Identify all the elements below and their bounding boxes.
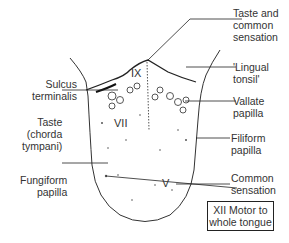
label-fungiform-papilla: Fungiform papilla	[20, 174, 67, 198]
label-line: sensation	[233, 31, 279, 43]
label-line: Fungiform	[20, 174, 67, 186]
label-line: Taste	[22, 116, 62, 128]
label-line: 'Lingual	[233, 61, 269, 73]
label-line: terminalis	[32, 90, 77, 102]
label-line: common	[233, 19, 279, 31]
label-line: Vallate	[233, 95, 264, 107]
motor-note-box: XII Motor to whole tongue	[207, 201, 274, 231]
label-line: sensation	[231, 184, 276, 196]
label-taste-and-common-sensation: Taste and common sensation	[233, 7, 279, 43]
label-line: tonsil'	[233, 73, 269, 85]
label-line: Common	[231, 172, 276, 184]
label-filiform-papilla: Filiform papilla	[231, 132, 265, 156]
label-lingual-tonsil: 'Lingual tonsil'	[233, 61, 269, 85]
region-vii: VII	[114, 117, 127, 129]
label-vallate-papilla: Vallate papilla	[233, 95, 264, 119]
label-line: (chorda	[22, 128, 62, 140]
label-line: Filiform	[231, 132, 265, 144]
tongue-outline	[70, 50, 220, 222]
label-line: Sulcus	[32, 78, 77, 90]
box-line: whole tongue	[208, 216, 273, 228]
label-line: papilla	[20, 186, 67, 198]
label-taste-chorda-tympani: Taste (chorda tympani)	[22, 116, 62, 152]
label-common-sensation: Common sensation	[231, 172, 276, 196]
box-line: XII Motor to	[208, 204, 273, 216]
label-line: tympani)	[22, 140, 62, 152]
label-sulcus-terminalis: Sulcus terminalis	[32, 78, 77, 102]
label-line: papilla	[231, 144, 265, 156]
region-v: V	[162, 177, 169, 189]
label-line: Taste and	[233, 7, 279, 19]
label-line: papilla	[233, 107, 264, 119]
region-ix: IX	[131, 67, 141, 79]
